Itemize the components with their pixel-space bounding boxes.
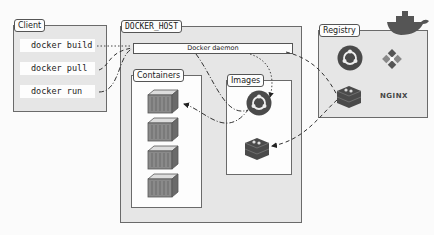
pull-line	[99, 48, 132, 70]
connector-lines	[0, 0, 434, 235]
pull-to-registry-line	[286, 52, 337, 95]
run-line	[99, 49, 132, 92]
build-to-image-line	[250, 54, 272, 97]
pull-to-image-line	[272, 100, 337, 146]
run-to-container-line	[184, 54, 248, 123]
